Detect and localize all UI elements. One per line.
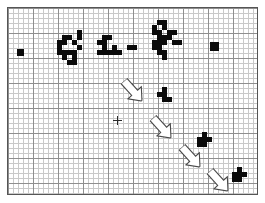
filled-cell (77, 30, 82, 40)
filled-cell (77, 45, 82, 50)
filled-cell (242, 172, 247, 177)
filled-cell (117, 50, 122, 55)
graph-paper-frame (7, 7, 258, 195)
filled-cell (172, 40, 182, 45)
filled-cell (97, 50, 102, 55)
filled-cell (207, 137, 212, 142)
crosshair-marker (113, 116, 122, 125)
filled-cell (17, 49, 24, 56)
grid-canvas-stage (0, 0, 265, 203)
filled-cell (107, 50, 117, 55)
filled-cell (162, 97, 167, 102)
filled-cell (167, 97, 172, 102)
filled-cell (162, 55, 167, 60)
filled-cell (67, 60, 72, 65)
filled-cell (237, 177, 242, 182)
filled-cell (202, 142, 207, 147)
filled-cell (127, 45, 137, 50)
filled-cell (72, 55, 77, 65)
filled-cell (210, 42, 219, 51)
crosshair-vertical-bar (117, 116, 118, 125)
